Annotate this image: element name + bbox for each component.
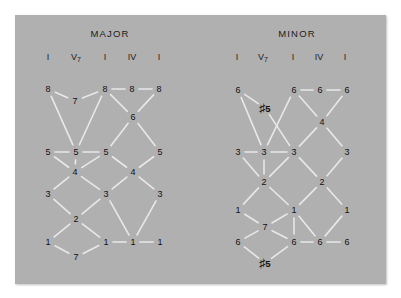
voice-leading-line (270, 158, 289, 177)
voice-leading-line (300, 188, 317, 205)
voice-leading-line (82, 92, 97, 98)
scale-degree-node: ♯5 (259, 102, 270, 114)
voice-leading-line (138, 95, 153, 111)
voice-leading-line (270, 187, 288, 204)
chord-label-major-5: I (158, 52, 161, 62)
scale-degree-node: 7 (73, 253, 78, 262)
scale-degree-node: 2 (261, 178, 266, 187)
section-title-major: MAJOR (90, 28, 129, 39)
chord-label-major-4: IV (128, 52, 137, 62)
voice-leading-line (55, 92, 67, 98)
scale-degree-value: 5 (265, 103, 270, 114)
scale-degree-node: 1 (344, 206, 349, 215)
scale-degree-node: 6 (291, 238, 296, 247)
scale-degree-node: 1 (291, 206, 296, 215)
scale-degree-node: 8 (102, 85, 107, 94)
chord-label-subscript: 7 (264, 56, 268, 63)
voice-leading-line (299, 216, 315, 236)
voice-leading-line (245, 214, 258, 222)
voice-leading-line (55, 246, 69, 253)
voice-leading-line (54, 199, 70, 213)
scale-degree-node: 8 (129, 85, 134, 94)
voice-leading-line (82, 177, 100, 190)
chord-label-subscript: 7 (77, 56, 81, 63)
voice-leading-line (112, 157, 126, 167)
scale-degree-node: 2 (319, 178, 324, 187)
scale-degree-node: 5 (103, 148, 108, 157)
voice-leading-line (83, 246, 99, 254)
scale-degree-node: ♯5 (259, 257, 270, 269)
section-title-minor: MINOR (278, 28, 316, 39)
voice-leading-line (82, 199, 100, 214)
scale-degree-node: 6 (344, 238, 349, 247)
voice-leading-line (138, 123, 155, 145)
voice-leading-line (111, 123, 128, 145)
voice-leading-line (79, 96, 101, 144)
scale-degree-node: 3 (344, 148, 349, 157)
scale-degree-node: 3 (291, 148, 296, 157)
scale-degree-node: 8 (45, 85, 50, 94)
scale-degree-node: 2 (73, 215, 78, 224)
voice-leading-line (327, 128, 342, 146)
scale-degree-node: 1 (130, 238, 135, 247)
voice-leading-line (82, 224, 99, 237)
voice-leading-line (110, 201, 129, 235)
scale-degree-node: 6 (130, 113, 135, 122)
voice-leading-line (111, 95, 128, 112)
scale-degree-node: 1 (103, 238, 108, 247)
scale-degree-node: 6 (344, 86, 349, 95)
voice-leading-line (243, 188, 258, 204)
voice-leading-line (54, 224, 70, 237)
voice-leading-line (327, 158, 342, 176)
voice-leading-line (325, 216, 342, 236)
scale-degree-node: 6 (317, 86, 322, 95)
scale-degree-node: 3 (261, 148, 266, 157)
voice-leading-line (299, 128, 316, 146)
voice-leading-line (82, 156, 100, 167)
chord-label-minor-2: V7 (258, 52, 268, 63)
voice-leading-line (245, 94, 259, 103)
scale-degree-node: 3 (103, 190, 108, 199)
voice-leading-line (51, 96, 73, 144)
voice-leading-line (327, 96, 342, 115)
scale-degree-node: 4 (72, 168, 77, 177)
voice-leading-line (272, 231, 287, 239)
scale-degree-value: 5 (265, 258, 270, 269)
chord-label-major-1: I (47, 52, 50, 62)
voice-leading-line (244, 247, 258, 258)
voice-leading-line (272, 214, 287, 223)
chord-label-major-3: I (104, 52, 107, 62)
chord-label-minor-3: I (292, 52, 295, 62)
voice-leading-line (139, 157, 153, 167)
chord-label-minor-1: I (236, 52, 239, 62)
scale-degree-node: 3 (45, 190, 50, 199)
voice-leading-lines (0, 0, 401, 298)
scale-degree-node: 5 (45, 148, 50, 157)
voice-leading-line (241, 97, 261, 144)
scale-degree-node: 5 (73, 148, 78, 157)
voice-leading-line (271, 247, 287, 259)
voice-leading-line (112, 177, 127, 189)
scale-degree-node: 7 (262, 223, 267, 232)
voice-leading-line (267, 97, 290, 145)
chord-label-major-2: V7 (71, 52, 81, 63)
scale-degree-node: 5 (157, 148, 162, 157)
voice-leading-line (245, 231, 258, 238)
scale-degree-node: 6 (317, 238, 322, 247)
voice-leading-line (327, 188, 341, 204)
scale-degree-node: 4 (130, 168, 135, 177)
scale-degree-node: 6 (291, 86, 296, 95)
scale-degree-node: 3 (235, 148, 240, 157)
scale-degree-node: 6 (235, 238, 240, 247)
scale-degree-node: 7 (72, 97, 77, 106)
voice-leading-line (137, 201, 156, 235)
scale-degree-node: 4 (319, 118, 324, 127)
chord-label-minor-5: I (344, 52, 347, 62)
diagram-stage: MAJORIV7IIVI878886555544333211117MINORIV… (0, 0, 401, 298)
voice-leading-line (54, 157, 68, 167)
voice-leading-line (299, 96, 316, 116)
scale-degree-node: 8 (156, 85, 161, 94)
voice-leading-line (299, 158, 316, 176)
voice-leading-line (243, 158, 259, 176)
scale-degree-node: 1 (157, 238, 162, 247)
